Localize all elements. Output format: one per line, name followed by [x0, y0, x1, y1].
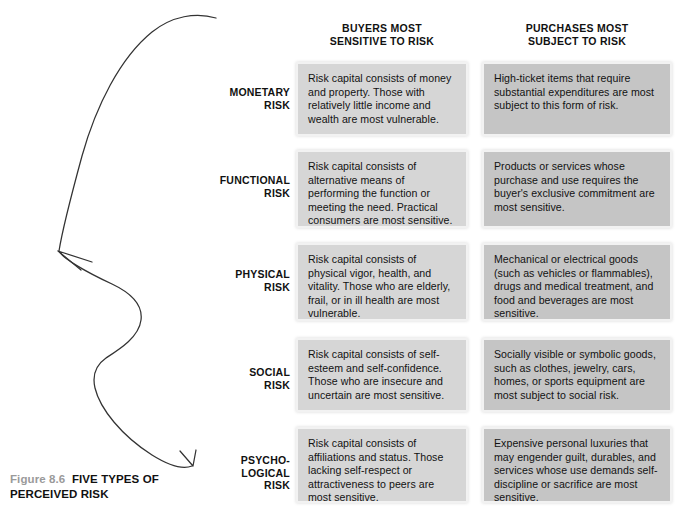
cell-text: Risk capital consists of alternative mea… [308, 160, 457, 228]
figure-caption: Figure 8.6 FIVE TYPES OF PERCEIVED RISK [10, 472, 225, 502]
row-label-line1: SOCIAL [180, 366, 290, 379]
row-label-line2: RISK [180, 99, 290, 112]
cell-buyers-social: Risk capital consists of self-esteem and… [296, 338, 468, 412]
cell-buyers-monetary: Risk capital consists of money and prope… [296, 62, 468, 136]
row-label-functional-risk: FUNCTIONAL RISK [180, 174, 290, 199]
cell-text: Risk capital consists of self-esteem and… [308, 348, 457, 402]
cell-text: Risk capital consists of money and prope… [308, 72, 457, 126]
cell-buyers-physical: Risk capital consists of physical vigor,… [296, 243, 468, 321]
cell-text: Products or services whose purchase and … [494, 160, 661, 214]
row-label-line1: MONETARY [180, 86, 290, 99]
cell-purchases-psychological: Expensive personal luxuries that may eng… [482, 427, 672, 503]
cell-purchases-physical: Mechanical or electrical goods (such as … [482, 243, 672, 321]
cell-buyers-psychological: Risk capital consists of affiliations an… [296, 427, 468, 503]
cell-purchases-functional: Products or services whose purchase and … [482, 150, 672, 228]
cell-text: Risk capital consists of affiliations an… [308, 437, 457, 505]
cell-text: Mechanical or electrical goods (such as … [494, 253, 661, 321]
risk-matrix: MONETARY RISK Risk capital consists of m… [0, 0, 679, 524]
row-label-line1: FUNCTIONAL [180, 174, 290, 187]
figure-five-types-of-perceived-risk: BUYERS MOST SENSITIVE TO RISK PURCHASES … [0, 0, 679, 524]
row-label-social-risk: SOCIAL RISK [180, 366, 290, 391]
cell-purchases-monetary: High-ticket items that require substanti… [482, 62, 672, 136]
figure-number: Figure 8.6 [10, 473, 65, 485]
row-label-line2: RISK [180, 379, 290, 392]
row-label-monetary-risk: MONETARY RISK [180, 86, 290, 111]
cell-purchases-social: Socially visible or symbolic goods, such… [482, 338, 672, 412]
row-label-physical-risk: PHYSICAL RISK [180, 268, 290, 293]
cell-text: High-ticket items that require substanti… [494, 72, 661, 113]
cell-text: Expensive personal luxuries that may eng… [494, 437, 661, 505]
row-label-line2: RISK [180, 187, 290, 200]
cell-text: Risk capital consists of physical vigor,… [308, 253, 457, 321]
row-label-line1: PHYSICAL [180, 268, 290, 281]
row-label-line2: RISK [180, 281, 290, 294]
cell-text: Socially visible or symbolic goods, such… [494, 348, 661, 402]
cell-buyers-functional: Risk capital consists of alternative mea… [296, 150, 468, 228]
row-label-line1: PSYCHO- [180, 454, 290, 467]
